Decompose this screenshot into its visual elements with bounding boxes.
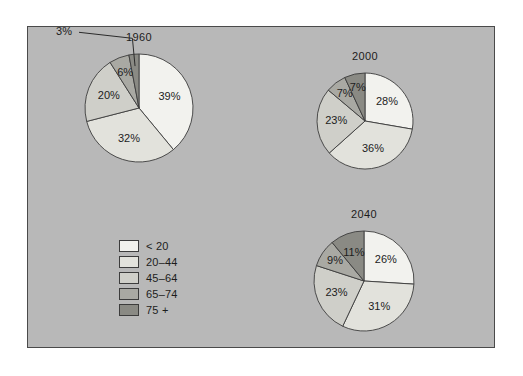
chart-frame: 196039%32%20%6%3%200028%36%23%7%7%204026… <box>27 26 495 348</box>
slice-value-label: 11% <box>343 246 364 258</box>
legend-swatch <box>119 304 139 316</box>
legend-item: 45–64 <box>119 270 178 285</box>
legend-item: < 20 <box>119 238 178 253</box>
legend-item-label: 75 + <box>146 304 169 316</box>
legend-swatch <box>119 288 139 300</box>
legend-swatch <box>119 240 139 252</box>
legend-item-label: 45–64 <box>146 272 178 284</box>
slice-value-label: 31% <box>368 300 390 312</box>
legend-item-label: 65–74 <box>146 288 178 300</box>
legend-swatch <box>119 272 139 284</box>
chart-legend: < 2020–4445–6465–7475 + <box>119 238 178 318</box>
slice-value-label: 26% <box>375 253 397 265</box>
slice-value-label: 9% <box>327 254 343 266</box>
figure-canvas: 196039%32%20%6%3%200028%36%23%7%7%204026… <box>0 0 523 376</box>
legend-swatch <box>119 256 139 268</box>
legend-item-label: < 20 <box>146 240 169 252</box>
pie-chart-2040: 204026%31%23%9%11% <box>28 27 494 347</box>
pie-slices: 26%31%23%9%11% <box>28 27 496 349</box>
legend-item: 20–44 <box>119 254 178 269</box>
legend-item: 75 + <box>119 302 178 317</box>
legend-item-label: 20–44 <box>146 256 178 268</box>
legend-item: 65–74 <box>119 286 178 301</box>
slice-value-label: 23% <box>325 286 347 298</box>
